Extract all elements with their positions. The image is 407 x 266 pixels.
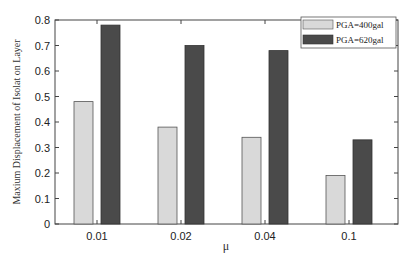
- x-tick-label: 0.04: [254, 230, 275, 242]
- y-tick-label: 0.8: [35, 14, 50, 26]
- legend: PGA=400gal PGA=620gal: [301, 17, 396, 48]
- legend-label-400: PGA=400gal: [336, 20, 384, 30]
- y-tick-label: 0.1: [35, 193, 50, 205]
- legend-swatch-400: [303, 20, 333, 29]
- bar: [242, 137, 261, 224]
- y-tick-label: 0: [44, 218, 50, 230]
- y-tick-label: 0.3: [35, 142, 50, 154]
- bar: [353, 140, 372, 224]
- bar: [74, 102, 93, 224]
- bar: [101, 25, 120, 224]
- y-tick-label: 0.4: [35, 116, 50, 128]
- bar-chart: 00.10.20.30.40.50.60.70.8 0.010.020.040.…: [0, 0, 407, 266]
- x-tick-label: 0.1: [341, 230, 356, 242]
- bar: [326, 176, 345, 224]
- x-axis-label: μ: [223, 239, 229, 253]
- x-tick-label: 0.02: [170, 230, 191, 242]
- legend-swatch-620: [303, 35, 333, 44]
- y-tick-label: 0.5: [35, 91, 50, 103]
- y-tick-label: 0.6: [35, 65, 50, 77]
- x-tick-label: 0.01: [86, 230, 107, 242]
- legend-label-620: PGA=620gal: [336, 35, 384, 45]
- bar: [158, 127, 177, 224]
- y-tick-label: 0.2: [35, 167, 50, 179]
- y-tick-label: 0.7: [35, 40, 50, 52]
- bar: [185, 46, 204, 225]
- bar: [269, 51, 288, 224]
- y-axis-label: Maxium Displacement of Isolat on Layer: [11, 39, 22, 205]
